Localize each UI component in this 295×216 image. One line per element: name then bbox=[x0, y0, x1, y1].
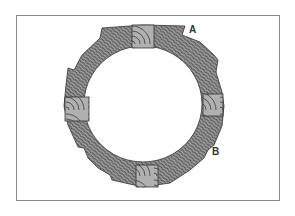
ring-diagram bbox=[0, 0, 295, 216]
block-right bbox=[203, 94, 223, 116]
block-left bbox=[65, 97, 89, 121]
block-top bbox=[132, 25, 154, 48]
label-a: A bbox=[189, 24, 196, 35]
block-bottom bbox=[136, 165, 158, 187]
label-b: B bbox=[212, 146, 219, 157]
